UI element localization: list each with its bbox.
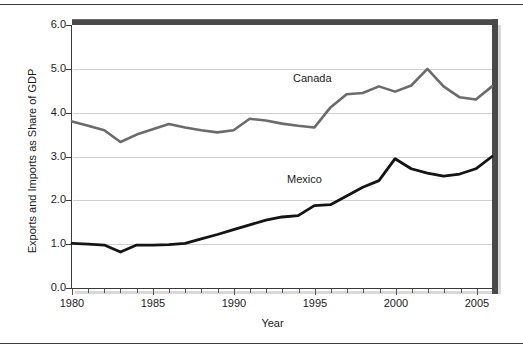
series-label-mexico: Mexico (287, 173, 322, 185)
line-mexico (72, 157, 492, 253)
line-canada (72, 69, 492, 142)
chart-figure: 6.0 5.0 4.0 3.0 2.0 1.0 0.0 1980 1985 19… (0, 0, 523, 348)
series-canvas (0, 0, 523, 348)
series-label-canada: Canada (293, 72, 332, 84)
